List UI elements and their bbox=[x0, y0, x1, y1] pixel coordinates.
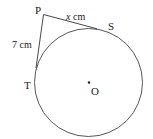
centre-point-dot bbox=[88, 81, 90, 83]
point-label-t: T bbox=[24, 79, 31, 91]
point-label-s: S bbox=[108, 20, 114, 32]
point-label-p: P bbox=[35, 4, 41, 16]
point-label-o: O bbox=[91, 85, 99, 97]
tangent-circle-diagram: P S T O 7 cm x cm bbox=[0, 0, 153, 139]
segment-label-ps-unit: cm bbox=[70, 11, 85, 22]
segment-label-pt: 7 cm bbox=[12, 39, 32, 50]
segment-label-ps: x cm bbox=[65, 11, 85, 22]
